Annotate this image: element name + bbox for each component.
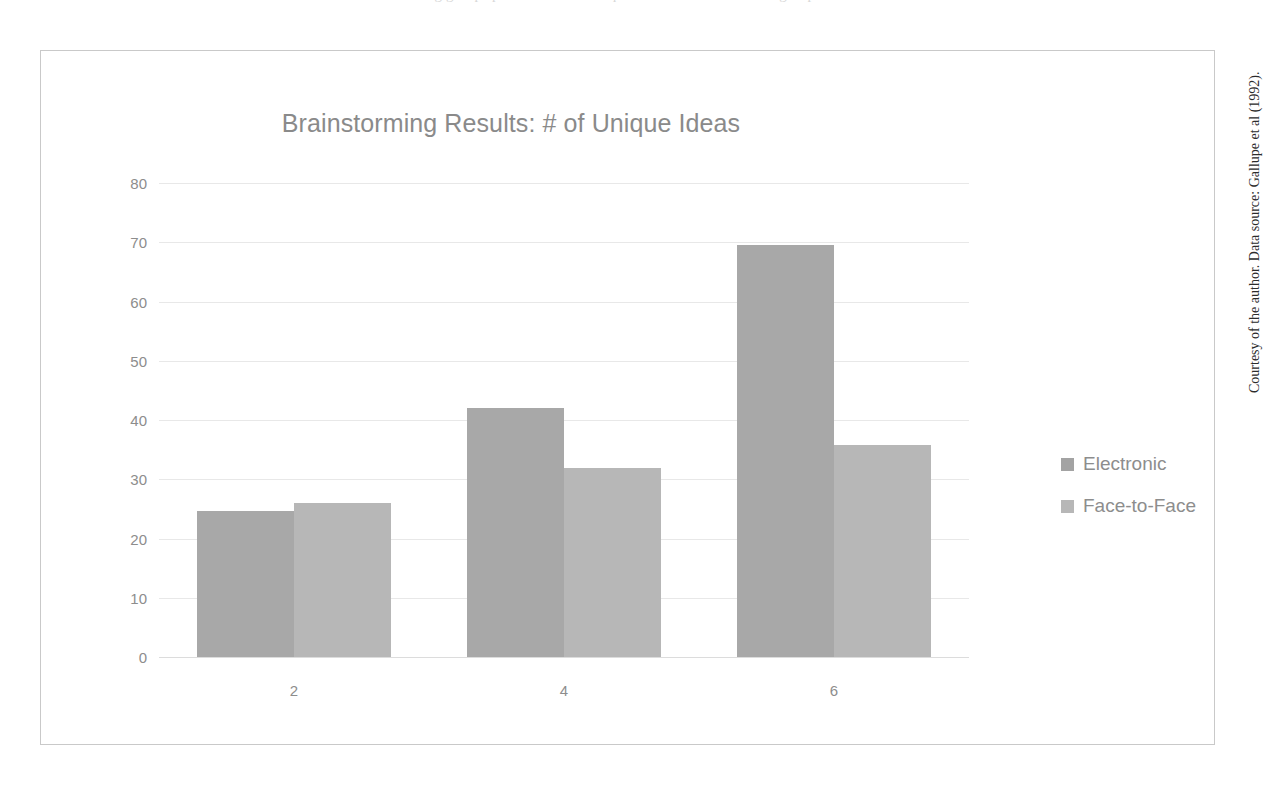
y-axis-tick-label: 40 (77, 413, 147, 428)
x-axis-tick-label: 2 (234, 683, 354, 698)
y-axis-tick-label: 80 (77, 176, 147, 191)
y-axis-tick-label: 10 (77, 591, 147, 606)
figure-frame: Brainstorming Results: # of Unique Ideas… (40, 50, 1215, 745)
legend-label-electronic: Electronic (1083, 453, 1166, 475)
image-credit: Courtesy of the author. Data source: Gal… (1247, 0, 1263, 393)
bar-face-to-face-group-2 (294, 503, 391, 657)
chart-title: Brainstorming Results: # of Unique Ideas (41, 109, 981, 138)
y-axis-tick-label: 0 (77, 650, 147, 665)
gridline (159, 183, 969, 184)
bar-electronic-group-2 (197, 511, 294, 657)
legend-square-icon (1061, 500, 1074, 513)
gridline (159, 302, 969, 303)
y-axis-tick-label: 30 (77, 472, 147, 487)
page-top-cutoff-text: brainstorming groups produced more uniqu… (0, 0, 1284, 6)
y-axis-tick-label: 20 (77, 532, 147, 547)
gridline (159, 420, 969, 421)
x-axis-line (159, 657, 969, 658)
legend-square-icon (1061, 458, 1074, 471)
y-axis-tick-label: 60 (77, 295, 147, 310)
x-axis-tick-label: 4 (504, 683, 624, 698)
y-axis-tick-label: 50 (77, 354, 147, 369)
legend-item-face-to-face: Face-to-Face (1061, 485, 1196, 527)
bar-chart: Brainstorming Results: # of Unique Ideas… (41, 51, 1216, 746)
bar-face-to-face-group-6 (834, 445, 931, 657)
legend-item-electronic: Electronic (1061, 443, 1196, 485)
y-axis-tick-label: 70 (77, 235, 147, 250)
legend-label-face-to-face: Face-to-Face (1083, 495, 1196, 517)
x-axis-tick-label: 6 (774, 683, 894, 698)
bar-face-to-face-group-4 (564, 468, 661, 657)
plot-area: 80706050403020100246 (159, 183, 969, 657)
chart-legend: Electronic Face-to-Face (1061, 443, 1196, 527)
gridline (159, 361, 969, 362)
gridline (159, 242, 969, 243)
bar-electronic-group-6 (737, 245, 834, 657)
bar-electronic-group-4 (467, 408, 564, 657)
